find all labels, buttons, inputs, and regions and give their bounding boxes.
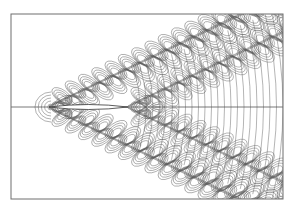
ship-hull — [49, 105, 128, 110]
contour-figure — [0, 0, 295, 211]
wave-contour-plot — [0, 0, 295, 211]
